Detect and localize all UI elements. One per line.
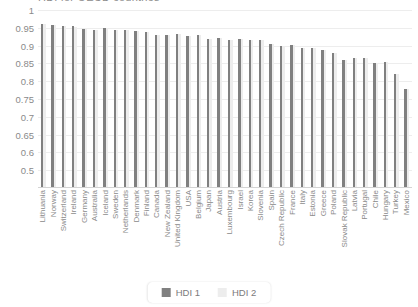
x-axis-tick-label: Italy [299,190,307,205]
x-axis-tick-label: France [289,190,297,215]
x-axis-tick: Canada [152,190,162,270]
bar[interactable] [116,30,118,188]
bar-group [246,10,256,188]
bar[interactable] [74,27,76,188]
bar[interactable] [137,31,139,188]
bar[interactable] [334,53,336,188]
bar[interactable] [95,30,97,188]
y-axis-tick-label: 0.7 [21,111,34,122]
x-axis-tick: Mexico [402,190,412,270]
bar[interactable] [43,24,45,188]
x-axis-tick-label: Canada [153,190,161,218]
bar[interactable] [168,35,170,188]
x-axis-tick-label: Finland [143,190,151,216]
bar-series-group [38,10,412,188]
y-axis-tick-label: 0.8 [21,76,34,87]
x-axis-tick-label: Slovenia [257,190,265,221]
bar[interactable] [324,50,326,188]
x-axis-tick-label: Czech Republic [278,190,286,246]
bar[interactable] [230,40,232,188]
bar[interactable] [386,62,388,188]
bar[interactable] [220,38,222,188]
x-axis-tick: Slovak Republic [339,190,349,270]
bar[interactable] [147,32,149,188]
bar[interactable] [282,46,284,188]
bar[interactable] [261,40,263,188]
bar[interactable] [355,58,357,188]
x-axis-tick-label: Latvia [351,190,359,211]
x-axis-tick-label: Estonia [309,190,317,217]
bar-group [100,10,110,188]
bar-group [204,10,214,188]
bar[interactable] [85,29,87,188]
bar-group [391,10,401,188]
x-axis-tick-label: Ireland [70,190,78,214]
bar-group [215,10,225,188]
bar[interactable] [241,39,243,188]
legend-label: HDI 2 [232,287,256,298]
bar-group [329,10,339,188]
bar[interactable] [376,63,378,188]
bar-group [48,10,58,188]
x-axis-tick-label: Israel [237,190,245,210]
x-axis-tick: France [287,190,297,270]
bar-group [194,10,204,188]
x-axis-tick-label: USA [185,190,193,206]
x-axis-tick-label: Norway [50,190,58,217]
x-axis-tick: Sweden [111,190,121,270]
x-axis-tick-label: Australia [91,190,99,221]
bar-group [287,10,297,188]
bar-group [59,10,69,188]
bar[interactable] [272,44,274,188]
x-axis-tick: Latvia [350,190,360,270]
bar[interactable] [157,35,159,188]
bar[interactable] [209,39,211,188]
bar[interactable] [126,30,128,188]
bar[interactable] [303,48,305,188]
bar-group [402,10,412,188]
bar[interactable] [199,35,201,188]
y-axis-tick-label: 0.5 [21,165,34,176]
bar-group [235,10,245,188]
x-axis-tick: Lithuania [38,190,48,270]
legend-item-hdi-1[interactable]: HDI 1 [162,287,200,298]
bar-group [132,10,142,188]
x-axis-tick: Ireland [69,190,79,270]
bar-group [371,10,381,188]
x-axis-tick: Austria [215,190,225,270]
x-axis-tick: Norway [48,190,58,270]
x-axis-tick: Iceland [100,190,110,270]
chart-legend: HDI 1 HDI 2 [148,282,271,303]
bar-group [308,10,318,188]
bar[interactable] [313,48,315,188]
x-axis-tick-label: Switzerland [60,190,68,231]
bar[interactable] [365,58,367,188]
bar[interactable] [396,74,398,188]
bar[interactable] [54,25,56,188]
x-axis-tick-label: Lithuania [39,190,47,222]
bar-group [225,10,235,188]
y-axis-tick-label: 0.85 [16,58,35,69]
bar-group [298,10,308,188]
bar[interactable] [189,36,191,188]
x-axis-tick: Poland [329,190,339,270]
bar-group [350,10,360,188]
bar-group [183,10,193,188]
x-axis-tick-label: Sweden [112,190,120,219]
bar-group [38,10,48,188]
bar[interactable] [407,89,409,188]
legend-item-hdi-2[interactable]: HDI 2 [218,287,256,298]
y-axis-tick-label: 0.65 [16,129,35,140]
bar[interactable] [178,34,180,188]
x-axis-tick-label: Turkey [392,190,400,214]
bar[interactable] [106,28,108,188]
bar[interactable] [293,45,295,188]
x-axis-tick-label: Korea [247,190,255,211]
x-axis-tick: Australia [90,190,100,270]
bar[interactable] [64,26,66,188]
bar[interactable] [345,60,347,188]
bar[interactable] [251,40,253,188]
bar-group [173,10,183,188]
x-axis-tick: Denmark [132,190,142,270]
x-axis-tick: Netherlands [121,190,131,270]
